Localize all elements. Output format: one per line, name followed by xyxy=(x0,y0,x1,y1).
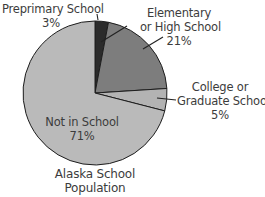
label-elementary-value: 21% xyxy=(140,34,218,48)
label-not-in-school-name: Not in School xyxy=(42,115,122,129)
label-not-in-school-value: 71% xyxy=(42,129,122,143)
label-elementary: Elementary or High School 21% xyxy=(140,6,218,48)
label-preprimary: Preprimary School 3% xyxy=(2,2,100,30)
chart-title-line2: Population xyxy=(50,181,140,195)
label-elementary-line1: Elementary xyxy=(140,6,218,20)
label-preprimary-name: Preprimary School xyxy=(2,2,100,16)
label-college: College or Graduate School 5% xyxy=(177,80,263,122)
label-college-line2: Graduate School xyxy=(177,94,263,108)
label-preprimary-value: 3% xyxy=(2,16,100,30)
label-college-value: 5% xyxy=(177,108,263,122)
chart-title: Alaska School Population xyxy=(50,167,140,195)
label-college-line1: College or xyxy=(177,80,263,94)
label-not-in-school: Not in School 71% xyxy=(42,115,122,143)
label-elementary-line2: or High School xyxy=(140,20,218,34)
chart-title-line1: Alaska School xyxy=(50,167,140,181)
